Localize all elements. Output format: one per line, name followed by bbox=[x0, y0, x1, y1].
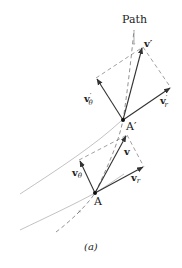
label-a: A bbox=[93, 195, 103, 208]
label-v-r-prime: v′r bbox=[159, 94, 168, 109]
vectors-a-prime bbox=[97, 48, 170, 120]
label-v-theta-prime: v′θ bbox=[83, 92, 93, 107]
label-v-r: vr bbox=[130, 172, 141, 185]
vector-v-theta-prime bbox=[97, 79, 123, 120]
figure-caption: (a) bbox=[84, 241, 98, 252]
velocity-diagram: Path v′ v′θ v′r A′ v vθ vr A (a) bbox=[0, 0, 182, 268]
vectors-a bbox=[80, 136, 143, 193]
vector-v-theta bbox=[80, 161, 95, 193]
path-label: Path bbox=[122, 13, 147, 26]
point-a-prime bbox=[121, 118, 125, 122]
label-v: v bbox=[123, 146, 131, 157]
label-a-prime: A′ bbox=[125, 120, 137, 133]
label-v-prime: v′ bbox=[143, 38, 153, 49]
label-v-theta: vθ bbox=[71, 167, 83, 180]
